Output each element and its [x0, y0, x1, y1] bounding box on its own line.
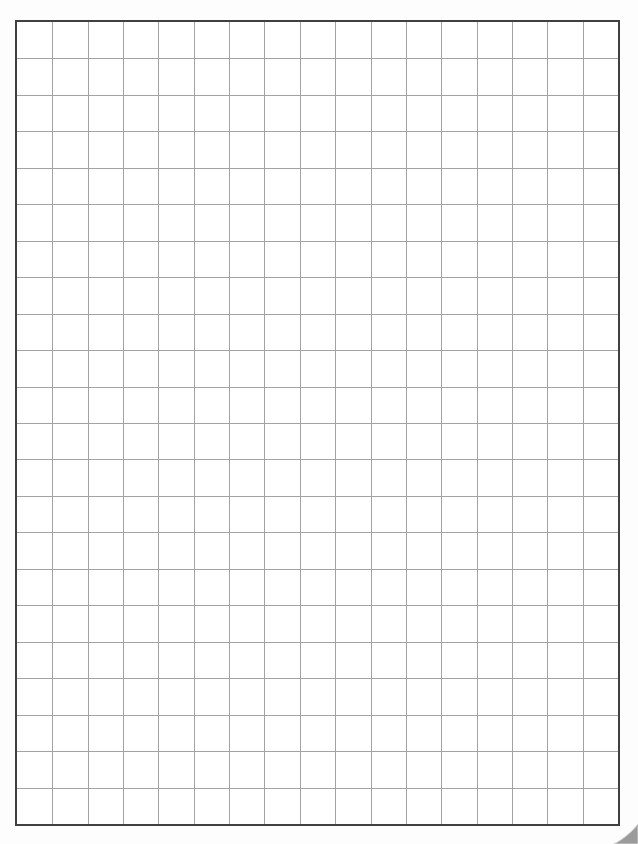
- page-corner-curl-shape: [612, 822, 638, 844]
- page-corner-curl-graphic: [612, 822, 638, 844]
- graph-paper-sheet: [15, 20, 620, 826]
- grid-lines: [17, 22, 618, 824]
- page-corner-curl-fill: [614, 824, 638, 844]
